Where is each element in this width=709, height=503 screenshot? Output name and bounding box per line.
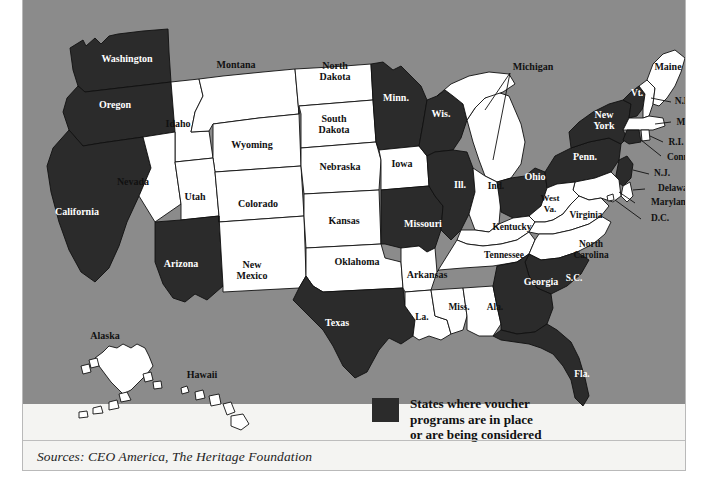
state-label-arkansas: Arkansas (407, 269, 448, 280)
state-colorado[interactable] (215, 166, 304, 222)
state-label-n-j: N.J. (654, 168, 670, 178)
state-label-tennessee: Tennessee (484, 250, 524, 260)
state-label-maine: Maine (654, 61, 682, 72)
state-label-california: California (55, 206, 99, 217)
state-label-fla: Fla. (574, 369, 589, 379)
legend-label: States where voucher programs are in pla… (410, 396, 542, 443)
us-map-svg[interactable]: .st { stroke:#111111; stroke-width:0.9; … (23, 0, 686, 471)
state-label-d-c: D.C. (651, 213, 669, 223)
state-label-alaska: Alaska (90, 330, 119, 341)
state-label-ind: Ind. (488, 181, 504, 191)
state-connecticut[interactable] (623, 130, 641, 144)
state-oklahoma[interactable] (306, 244, 403, 292)
leader-delaware (633, 189, 645, 190)
leader-ri (650, 136, 663, 142)
us-map[interactable]: .st { stroke:#111111; stroke-width:0.9; … (23, 0, 686, 471)
state-label-minn: Minn. (383, 92, 409, 103)
state-label-miss: Miss. (448, 302, 469, 312)
state-label-ala: Ala. (487, 302, 503, 312)
state-label-missouri: Missouri (404, 218, 442, 229)
state-label-oklahoma: Oklahoma (334, 256, 379, 267)
state-label-arizona: Arizona (164, 258, 198, 269)
state-minnesota[interactable] (371, 62, 427, 150)
state-label-kentucky: Kentucky (492, 222, 531, 232)
state-label-maryland: Maryland (651, 197, 686, 207)
legend-swatch-shaded (372, 398, 399, 422)
state-label-r-i: R.I. (668, 137, 683, 147)
state-label-mass: Mass. (676, 117, 686, 127)
state-label-vt: Vt. (631, 88, 643, 98)
source-text: Sources: CEO America, The Heritage Found… (23, 449, 312, 465)
state-label-ohio: Ohio (524, 171, 545, 182)
state-label-washington: Washington (101, 53, 153, 64)
state-label-texas: Texas (325, 317, 349, 328)
state-texas[interactable] (293, 276, 415, 378)
state-label-north-carolina: NorthCarolina (573, 239, 609, 260)
state-label-penn: Penn. (573, 151, 598, 162)
source-line: Sources: CEO America, The Heritage Found… (23, 440, 686, 471)
state-rhode-island[interactable] (641, 130, 650, 141)
state-utah[interactable] (175, 158, 219, 220)
state-label-utah: Utah (184, 191, 206, 202)
state-label-iowa: Iowa (391, 158, 412, 169)
state-label-new-york: NewYork (593, 109, 615, 131)
state-label-colorado: Colorado (238, 198, 278, 209)
state-label-hawaii: Hawaii (187, 369, 218, 380)
state-label-wyoming: Wyoming (231, 139, 272, 150)
state-alaska[interactable] (79, 344, 162, 418)
state-label-montana: Montana (217, 59, 256, 70)
state-label-delaware: Delaware (658, 183, 686, 193)
state-label-michigan: Michigan (513, 61, 554, 72)
state-label-wis: Wis. (432, 108, 451, 119)
state-label-n-h: N.H. (675, 96, 686, 106)
state-label-south-dakota: SouthDakota (318, 113, 349, 135)
leader-conn (641, 140, 661, 156)
state-label-s-c: S.C. (566, 273, 583, 283)
state-label-la: La. (415, 312, 428, 322)
state-hawaii[interactable] (181, 386, 249, 430)
state-label-idaho: Idaho (165, 118, 190, 129)
state-label-kansas: Kansas (328, 215, 359, 226)
legend: States where voucher programs are in pla… (372, 396, 542, 443)
state-label-georgia: Georgia (524, 276, 558, 287)
state-label-nebraska: Nebraska (319, 161, 360, 172)
figure-frame: .st { stroke:#111111; stroke-width:0.9; … (22, 0, 686, 471)
state-label-conn: Conn. (667, 152, 686, 162)
state-label-nevada: Nevada (117, 176, 149, 187)
state-massachusetts[interactable] (623, 116, 665, 130)
state-label-oregon: Oregon (99, 99, 131, 110)
leader-dc (615, 200, 641, 219)
state-florida[interactable] (493, 324, 589, 406)
state-label-virginia: Virginia (570, 210, 603, 220)
state-label-ill: Ill. (454, 179, 466, 190)
state-label-north-dakota: NorthDakota (319, 60, 350, 82)
leader-nj (633, 170, 649, 174)
figure-root: .st { stroke:#111111; stroke-width:0.9; … (0, 0, 709, 503)
